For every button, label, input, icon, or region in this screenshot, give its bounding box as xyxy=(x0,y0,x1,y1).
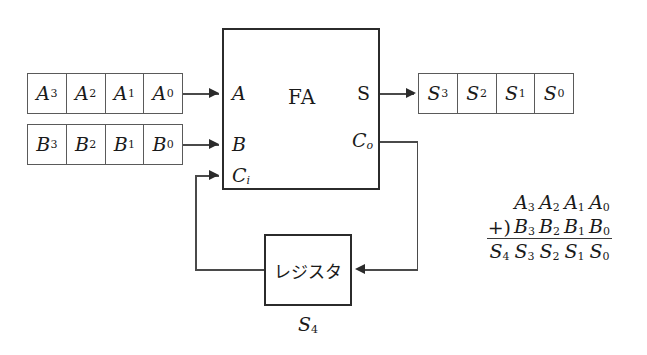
addition-addend-row: +) B3 B2 B1 B0 xyxy=(487,216,612,240)
s-register-cell: S1 xyxy=(497,74,536,113)
register-cell-sub: 0 xyxy=(167,88,174,99)
digit-base: A xyxy=(514,191,528,213)
digit-base: B xyxy=(539,215,553,237)
addition-augend-digit: A2 xyxy=(537,192,562,215)
fa-port-co-sub: o xyxy=(367,139,374,152)
addition-sum-digit: S3 xyxy=(512,241,537,264)
digit-sub: 1 xyxy=(578,225,585,238)
fa-port-a-label: A xyxy=(232,82,246,104)
register-cell-sub: 2 xyxy=(89,88,96,99)
fa-port-s: S xyxy=(357,84,370,103)
s-register: S3S2S1S0 xyxy=(418,73,574,114)
register-cell-sub: 0 xyxy=(167,139,174,150)
wire-co-horizontal-upper xyxy=(380,141,418,143)
digit-base: B xyxy=(564,215,578,237)
register-cell-sub: 3 xyxy=(50,88,57,99)
arrowhead-b-input xyxy=(209,139,219,149)
register-cell-base: S xyxy=(428,84,441,103)
a-register-cell: A3 xyxy=(28,74,67,113)
b-register-cell: B2 xyxy=(67,125,106,164)
register-cell-sub: 3 xyxy=(51,139,58,150)
register-cell-base: B xyxy=(152,135,166,154)
digit-sub: 0 xyxy=(603,251,610,264)
b-register-cell: B3 xyxy=(28,125,67,164)
register-cell-base: S xyxy=(466,84,479,103)
fa-port-b-label: B xyxy=(232,133,246,155)
a-register: A3A2A1A0 xyxy=(27,73,183,114)
arrowhead-ci-input xyxy=(209,170,219,180)
a-register-cell: A0 xyxy=(144,74,182,113)
register-cell-sub: 2 xyxy=(480,88,487,99)
s-register-cell: S3 xyxy=(419,74,458,113)
digit-base: S xyxy=(514,240,527,262)
digit-sub: 2 xyxy=(553,251,560,264)
register-cell-base: S xyxy=(544,84,557,103)
register-cell-base: A xyxy=(114,84,128,103)
addition-addend-digits: B3 B2 B1 B0 xyxy=(512,216,612,239)
s-register-cell: S2 xyxy=(458,74,497,113)
addition-addend-digit: B3 xyxy=(512,216,537,239)
digit-sub: 0 xyxy=(603,225,610,238)
addition-sum-digit: S2 xyxy=(537,241,562,264)
digit-sub: 3 xyxy=(528,251,535,264)
addition-sum-digits: S4 S3 S2 S1 S0 xyxy=(487,241,612,264)
digit-base: S xyxy=(564,240,577,262)
arrowhead-s-output xyxy=(406,88,416,98)
carry-register-block: レジスタ xyxy=(264,234,352,306)
carry-register-below-sub: 4 xyxy=(311,323,318,336)
digit-sub: 1 xyxy=(578,201,585,214)
carry-register-label: レジスタ xyxy=(274,258,342,283)
register-cell-base: S xyxy=(505,84,518,103)
arrowhead-a-input xyxy=(209,88,219,98)
a-register-cell: A1 xyxy=(106,74,145,113)
wire-co-horizontal-lower xyxy=(365,269,418,271)
digit-base: S xyxy=(539,240,552,262)
digit-base: A xyxy=(589,191,603,213)
addition-sum-digit: S1 xyxy=(562,241,587,264)
carry-register-below-label: S4 xyxy=(264,315,352,335)
a-register-cell: A2 xyxy=(67,74,106,113)
carry-register-below-base: S xyxy=(298,313,311,335)
wire-co-vertical xyxy=(417,141,419,270)
addition-expression: A3 A2 A1 A0 +) B3 B2 B1 B0 S4 S3 S2 S1 S… xyxy=(487,192,612,264)
addition-sum-digit: S4 xyxy=(487,241,512,264)
digit-base: B xyxy=(589,215,603,237)
diagram-canvas: A3A2A1A0 B3B2B1B0 S3S2S1S0 FA A B Ci S C… xyxy=(0,0,647,355)
digit-base: B xyxy=(514,215,528,237)
digit-base: S xyxy=(489,240,502,262)
fa-port-co-base: C xyxy=(352,129,367,151)
fa-title: FA xyxy=(288,85,316,109)
register-cell-sub: 1 xyxy=(519,88,526,99)
s-register-cell: S0 xyxy=(535,74,573,113)
addition-augend-row: A3 A2 A1 A0 xyxy=(487,192,612,215)
fa-port-ci: Ci xyxy=(232,166,250,186)
wire-register-to-ci-horizontal-lower xyxy=(195,269,265,271)
addition-augend-digits: A3 A2 A1 A0 xyxy=(512,192,612,215)
fa-port-s-label: S xyxy=(357,82,370,104)
register-cell-base: A xyxy=(75,84,89,103)
b-register-cell: B0 xyxy=(144,125,182,164)
register-cell-sub: 1 xyxy=(128,88,135,99)
fa-port-co: Co xyxy=(352,131,373,151)
register-cell-sub: 1 xyxy=(128,139,135,150)
addition-addend-digit: B0 xyxy=(587,216,612,239)
digit-sub: 0 xyxy=(603,201,610,214)
fa-port-ci-base: C xyxy=(232,164,247,186)
b-register: B3B2B1B0 xyxy=(27,124,183,165)
register-cell-sub: 0 xyxy=(557,88,564,99)
digit-base: A xyxy=(564,191,578,213)
digit-sub: 3 xyxy=(528,201,535,214)
arrowhead-carry-register-input xyxy=(355,264,365,274)
register-cell-base: B xyxy=(75,135,89,154)
digit-sub: 2 xyxy=(553,201,560,214)
digit-sub: 1 xyxy=(578,251,585,264)
digit-sub: 3 xyxy=(528,225,535,238)
register-cell-sub: 2 xyxy=(89,139,96,150)
addition-addend-digit: B2 xyxy=(537,216,562,239)
fa-port-ci-sub: i xyxy=(247,174,251,187)
register-cell-base: A xyxy=(153,84,167,103)
register-cell-base: A xyxy=(36,84,50,103)
fa-port-a: A xyxy=(232,84,246,103)
fa-port-b: B xyxy=(232,135,246,154)
addition-sum-digit: S0 xyxy=(587,241,612,264)
